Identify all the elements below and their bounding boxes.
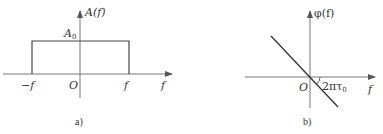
right-tick-label: f bbox=[123, 79, 130, 92]
slope-angle-arc bbox=[317, 77, 320, 84]
caption-a: a) bbox=[75, 116, 83, 128]
phase-line bbox=[271, 36, 338, 107]
diagram-b: φ(f) O 2πτ0 f b) bbox=[245, 7, 375, 128]
origin-label: O bbox=[299, 81, 308, 94]
x-axis-label: f bbox=[160, 79, 167, 92]
y-axis-label: A(f) bbox=[84, 6, 106, 19]
diagram-canvas: A(f) A0 −f O f f a) φ(f) O 2πτ0 f b) bbox=[0, 0, 383, 134]
y-axis-label: φ(f) bbox=[314, 7, 334, 20]
x-axis-label: f bbox=[367, 83, 374, 96]
left-tick-label: −f bbox=[21, 79, 36, 92]
origin-label: O bbox=[69, 79, 78, 92]
caption-b: b) bbox=[303, 116, 311, 128]
slope-label: 2πτ0 bbox=[322, 80, 347, 94]
amplitude-label: A0 bbox=[63, 27, 76, 41]
diagram-a: A(f) A0 −f O f f a) bbox=[3, 6, 172, 128]
